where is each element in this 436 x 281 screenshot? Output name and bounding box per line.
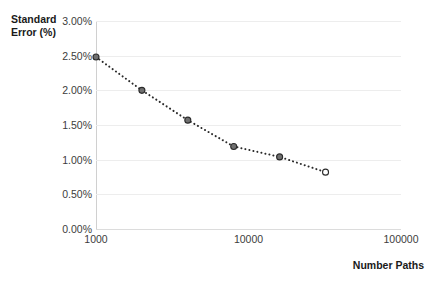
series-line xyxy=(96,57,326,172)
x-axis-title: Number Paths xyxy=(353,259,424,271)
data-point-marker xyxy=(93,54,99,60)
data-point-marker xyxy=(277,154,283,160)
data-point-marker xyxy=(231,143,237,149)
data-point-marker xyxy=(139,87,145,93)
data-point-marker xyxy=(323,169,329,175)
data-series-layer xyxy=(0,0,436,281)
data-point-marker xyxy=(185,117,191,123)
standard-error-chart: Standard Error (%) 0.00%0.50%1.00%1.50%2… xyxy=(0,0,436,281)
